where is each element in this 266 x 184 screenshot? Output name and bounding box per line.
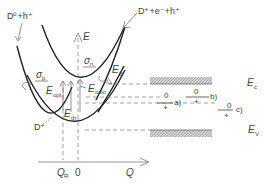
e-b-label: E xyxy=(112,64,119,75)
svg-text:+: + xyxy=(194,97,199,106)
e-th-sub: th xyxy=(71,115,76,121)
svg-text:b): b) xyxy=(210,92,217,101)
label-d0-h: D⁰+h⁺ xyxy=(7,11,33,21)
e-calc-pointer xyxy=(80,86,86,88)
svg-text:+: + xyxy=(163,103,168,112)
svg-text:+: + xyxy=(224,111,229,120)
qr-tick-sub: R xyxy=(64,173,69,179)
e-calc-sub: calc xyxy=(95,89,106,95)
level-c: 0 + c) xyxy=(218,101,243,120)
label-d-e-h: D⁺+e⁻+h⁺ xyxy=(138,6,180,16)
energy-axis-label: E xyxy=(83,31,90,42)
svg-text:c): c) xyxy=(236,105,243,114)
ec-label: E xyxy=(247,77,254,88)
zero-tick-label: 0 xyxy=(75,167,81,178)
e-opt-label: E xyxy=(46,85,53,96)
svg-text:0: 0 xyxy=(194,87,199,96)
e-b-sub: B xyxy=(119,71,123,77)
configuration-coordinate-diagram: E Q Q R 0 D⁰+h⁺ D⁺+e⁻+h⁺ D⁺ σ p σ n E B … xyxy=(0,0,266,184)
e-opt-sub: opt xyxy=(53,92,62,98)
conduction-band xyxy=(150,77,212,84)
ev-sub: V xyxy=(255,131,259,137)
sigma-p-sub: p xyxy=(42,75,46,81)
svg-text:0: 0 xyxy=(164,91,169,100)
valence-band xyxy=(150,130,212,137)
svg-text:0: 0 xyxy=(227,101,232,110)
e-calc-label: E xyxy=(88,83,95,94)
e-th-label: E xyxy=(64,108,71,119)
svg-text:a): a) xyxy=(174,98,181,107)
level-a: 0 + a) xyxy=(157,91,181,112)
ev-label: E xyxy=(248,124,255,135)
pointer-d-e-h-icon xyxy=(123,13,137,28)
pointer-d0-h-icon xyxy=(15,23,22,41)
q-axis-label: Q xyxy=(126,167,134,178)
ec-sub: c xyxy=(254,84,257,90)
sigma-n-sub: n xyxy=(90,61,93,67)
